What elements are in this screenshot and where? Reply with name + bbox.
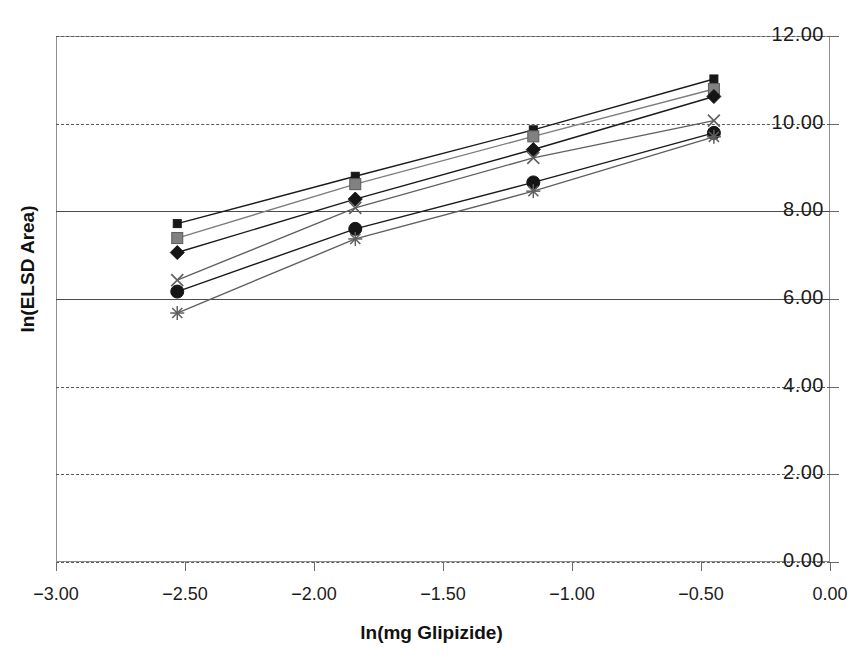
y-tick-8.00	[830, 211, 839, 212]
y-tick-12.00	[830, 36, 839, 37]
x-tick-label--0.50: −0.50	[678, 584, 724, 605]
x-tick--0.50	[701, 562, 702, 571]
y-tick-10.00	[830, 124, 839, 125]
y-tick-label-8.00: 8.00	[750, 198, 824, 221]
x-tick-label--2.00: −2.00	[291, 584, 337, 605]
y-tick-6.00	[830, 299, 839, 300]
x-tick--3.00	[56, 562, 57, 571]
x-tick-label--1.50: −1.50	[420, 584, 466, 605]
x-tick--2.00	[314, 562, 315, 571]
x-tick-label--1.00: −1.00	[549, 584, 595, 605]
gridline-y-12.00	[56, 36, 830, 37]
x-tick--1.50	[443, 562, 444, 571]
plot-area	[56, 36, 830, 562]
x-tick--1.00	[572, 562, 573, 571]
x-tick-label-0.00: 0.00	[812, 584, 847, 605]
y-tick-label-0.00: 0.00	[750, 549, 824, 572]
x-axis-title: ln(mg Glipizide)	[0, 622, 863, 644]
y-tick-2.00	[830, 474, 839, 475]
y-tick-label-10.00: 10.00	[750, 111, 824, 134]
chart-page: 0.002.004.006.008.0010.0012.00 −3.00−2.5…	[0, 0, 863, 662]
y-tick-4.00	[830, 387, 839, 388]
x-tick-label--3.00: −3.00	[33, 584, 79, 605]
y-tick-0.00	[830, 562, 839, 563]
y-tick-label-6.00: 6.00	[750, 286, 824, 309]
x-tick-0.00	[830, 562, 831, 571]
y-axis-title: ln(ELSD Area)	[17, 169, 39, 369]
gridline-y-10.00	[56, 124, 830, 125]
gridline-y-8.00	[56, 211, 830, 212]
x-tick-label--2.50: −2.50	[162, 584, 208, 605]
y-tick-label-12.00: 12.00	[750, 23, 824, 46]
y-tick-label-4.00: 4.00	[750, 374, 824, 397]
gridline-y-6.00	[56, 299, 830, 300]
x-tick--2.50	[185, 562, 186, 571]
y-tick-label-2.00: 2.00	[750, 461, 824, 484]
gridline-y-4.00	[56, 387, 830, 388]
gridline-y-2.00	[56, 474, 830, 475]
